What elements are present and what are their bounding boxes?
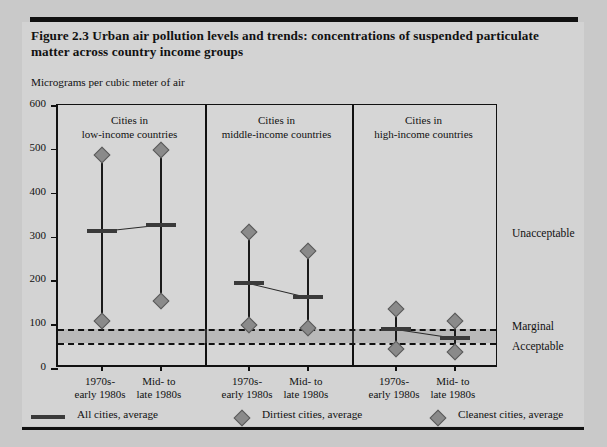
figure-page: Figure 2.3 Urban air pollution levels an…: [0, 0, 607, 447]
group-header-2: Cities inmiddle-income countries: [202, 114, 352, 141]
y-axis-label: 500: [6, 141, 46, 153]
group-header-line1: Cities in: [202, 114, 352, 128]
mean-marker: [146, 223, 176, 227]
y-axis-label: 300: [6, 229, 46, 241]
y-axis-label: 100: [6, 316, 46, 328]
legend-label-dirtiest: Dirtiest cities, average: [262, 408, 362, 420]
group-separator-2: [352, 105, 354, 365]
data-point-cleanest: [94, 312, 111, 329]
threshold-line-marginal: [58, 329, 496, 331]
x-axis-category-6: Mid- tolate 1980s: [398, 375, 508, 401]
data-point-dirtiest: [299, 242, 316, 259]
y-axis-tick: [51, 149, 58, 151]
x-axis-tick: [101, 365, 102, 371]
mean-marker: [381, 327, 411, 331]
group-header-line1: Cities in: [55, 114, 205, 128]
y-axis-label: 0: [6, 360, 46, 372]
threshold-line-acceptable: [58, 343, 496, 345]
y-axis-tick: [51, 105, 58, 107]
data-point-dirtiest: [446, 312, 463, 329]
group-header-line2: middle-income countries: [202, 128, 352, 142]
data-point-dirtiest: [94, 146, 111, 163]
x-axis-tick: [307, 365, 308, 371]
plot-area: [56, 104, 497, 367]
range-whisker: [101, 155, 103, 321]
y-axis-label: 600: [6, 97, 46, 109]
range-whisker: [248, 232, 250, 325]
x-category-line1: Mid- to: [398, 375, 508, 388]
y-axis-label: 200: [6, 272, 46, 284]
annotation-acceptable: Acceptable: [512, 340, 564, 352]
data-point-cleanest: [152, 293, 169, 310]
data-point-dirtiest: [388, 300, 405, 317]
y-axis-tick: [51, 280, 58, 282]
x-axis-tick: [160, 365, 161, 371]
y-axis-tick: [51, 368, 58, 370]
group-header-line1: Cities in: [349, 114, 499, 128]
mean-marker: [234, 281, 264, 285]
x-axis-tick: [395, 365, 396, 371]
y-axis-label: 400: [6, 185, 46, 197]
group-header-3: Cities inhigh-income countries: [349, 114, 499, 141]
annotation-marginal: Marginal: [512, 320, 554, 332]
x-category-line2: late 1980s: [398, 388, 508, 401]
data-point-cleanest: [446, 343, 463, 360]
group-header-line2: low-income countries: [55, 128, 205, 142]
data-point-dirtiest: [241, 224, 258, 241]
mean-marker: [293, 295, 323, 299]
x-axis-tick: [454, 365, 455, 371]
bottom-rule: [22, 427, 584, 430]
range-whisker: [307, 251, 309, 328]
y-axis-caption: Micrograms per cubic meter of air: [31, 76, 185, 88]
figure-title: Figure 2.3 Urban air pollution levels an…: [31, 28, 576, 60]
annotation-unacceptable: Unacceptable: [512, 227, 575, 239]
mean-marker: [87, 229, 117, 233]
y-axis-tick: [51, 237, 58, 239]
group-header-line2: high-income countries: [349, 128, 499, 142]
x-axis-tick: [248, 365, 249, 371]
legend-label-cleanest: Cleanest cities, average: [458, 408, 563, 420]
group-header-1: Cities inlow-income countries: [55, 114, 205, 141]
legend-line-marker: [31, 415, 65, 419]
y-axis-tick: [51, 324, 58, 326]
mean-marker: [440, 336, 470, 340]
data-point-dirtiest: [152, 142, 169, 159]
marginal-band: [58, 329, 496, 343]
group-separator-1: [205, 105, 207, 365]
legend-label-all-cities: All cities, average: [77, 408, 158, 420]
y-axis-tick: [51, 193, 58, 195]
